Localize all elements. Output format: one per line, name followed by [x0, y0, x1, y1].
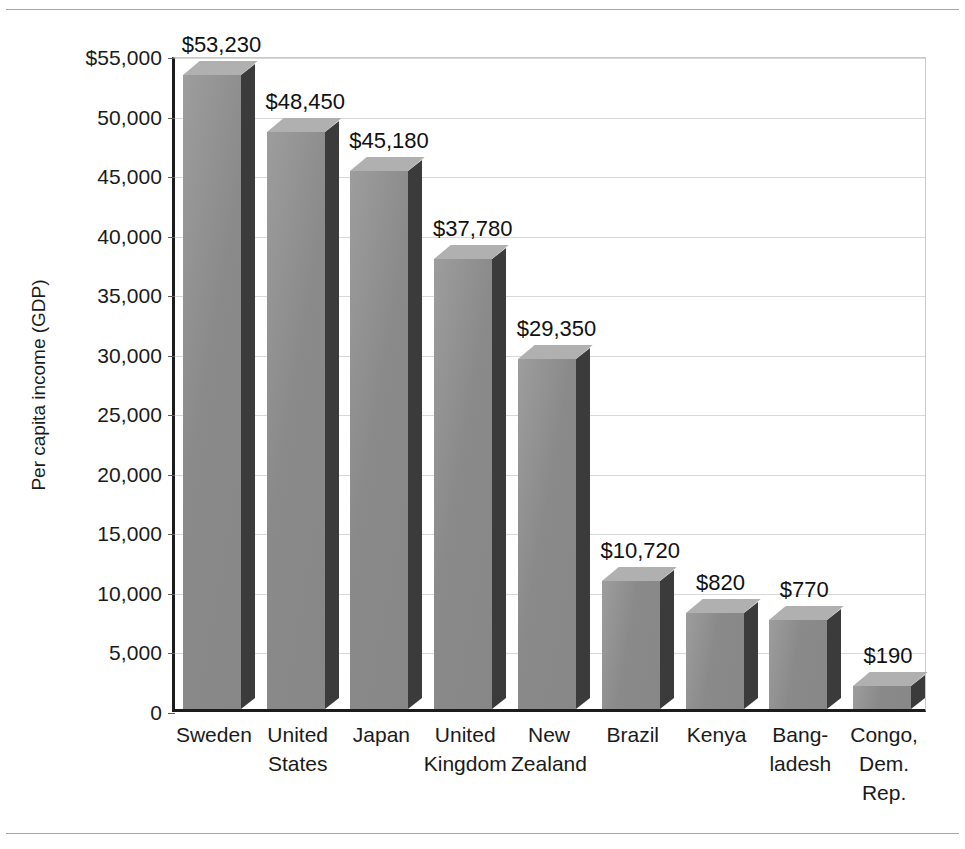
bar-front-face: [602, 581, 660, 709]
x-axis-label-line: Japan: [340, 720, 424, 749]
y-tick-label: 30,000: [97, 344, 162, 368]
y-tick-label: 40,000: [97, 225, 162, 249]
bar: $190: [853, 686, 911, 709]
bar-front-face: [350, 171, 408, 709]
x-axis-label: Bang-ladesh: [758, 720, 842, 778]
y-tick-mark: [168, 296, 175, 297]
y-tick-mark: [168, 177, 175, 178]
x-axis-label-line: Sweden: [172, 720, 256, 749]
bar-side-face: [660, 570, 674, 709]
x-axis-label: NewZealand: [507, 720, 591, 778]
page-rule-bottom: [6, 833, 959, 834]
x-axis-label-line: Congo,: [842, 720, 926, 749]
bar: $770: [769, 620, 827, 709]
x-axis-label-line: United: [423, 720, 507, 749]
y-axis-title: Per capita income (GDP): [26, 57, 52, 712]
y-tick-mark: [168, 713, 175, 714]
x-axis-label-line: Bang-: [758, 720, 842, 749]
x-axis-label-line: New: [507, 720, 591, 749]
bar: $29,350: [518, 359, 576, 709]
y-tick-mark: [168, 415, 175, 416]
bar-side-face: [827, 609, 841, 709]
y-tick-label: 25,000: [97, 403, 162, 427]
y-tick-label: 15,000: [97, 522, 162, 546]
y-tick-mark: [168, 653, 175, 654]
bar-value-label: $820: [696, 570, 745, 596]
y-tick-label: 50,000: [97, 106, 162, 130]
y-tick-label: 0: [150, 701, 162, 725]
y-tick-mark: [168, 594, 175, 595]
bar-value-label: $770: [780, 577, 829, 603]
chart-page: Per capita income (GDP) $55,00050,00045,…: [0, 0, 965, 849]
y-tick-label: $55,000: [85, 46, 162, 70]
bar: $45,180: [350, 171, 408, 709]
bar-value-label: $53,230: [182, 32, 262, 58]
bar: $48,450: [267, 132, 325, 709]
bar-front-face: [183, 75, 241, 709]
bar-front-face: [267, 132, 325, 709]
bar-side-face: [325, 121, 339, 709]
y-tick-mark: [168, 118, 175, 119]
y-tick-label: 45,000: [97, 165, 162, 189]
y-tick-label: 10,000: [97, 582, 162, 606]
y-tick-mark: [168, 237, 175, 238]
y-tick-mark: [168, 475, 175, 476]
x-axis-label-line: Zealand: [507, 749, 591, 778]
x-axis-label-line: Kingdom: [423, 749, 507, 778]
page-rule-top: [6, 9, 959, 10]
y-tick-mark: [168, 58, 175, 59]
bar: $53,230: [183, 75, 241, 709]
y-tick-mark: [168, 534, 175, 535]
y-axis-title-text: Per capita income (GDP): [28, 279, 50, 490]
x-axis-labels: SwedenUnitedStatesJapanUnitedKingdomNewZ…: [172, 720, 926, 820]
bar-side-face: [492, 248, 506, 709]
x-axis-label-line: Brazil: [591, 720, 675, 749]
y-tick-mark: [168, 356, 175, 357]
x-axis-label: UnitedKingdom: [423, 720, 507, 778]
x-axis-label: Japan: [340, 720, 424, 749]
bar-value-label: $190: [864, 643, 913, 669]
x-axis-label: Congo,Dem.Rep.: [842, 720, 926, 807]
bar-side-face: [408, 160, 422, 709]
x-axis-label: UnitedStates: [256, 720, 340, 778]
bar: $10,720: [602, 581, 660, 709]
y-tick-label: 20,000: [97, 463, 162, 487]
x-axis-label-line: Rep.: [842, 778, 926, 807]
bar-chart: Per capita income (GDP) $55,00050,00045,…: [0, 20, 965, 820]
bar-value-label: $10,720: [601, 538, 681, 564]
bar-front-face: [434, 259, 492, 709]
bar-value-label: $48,450: [265, 89, 345, 115]
bar-side-face: [576, 349, 590, 709]
bar: $820: [686, 613, 744, 709]
bar-value-label: $29,350: [517, 316, 597, 342]
bar-side-face: [241, 64, 255, 709]
y-tick-label: 35,000: [97, 284, 162, 308]
x-axis-label-line: Kenya: [675, 720, 759, 749]
bar-value-label: $45,180: [349, 128, 429, 154]
bar-front-face: [518, 359, 576, 709]
x-axis-label: Kenya: [675, 720, 759, 749]
x-axis-label-line: ladesh: [758, 749, 842, 778]
bar-front-face: [686, 613, 744, 709]
plot-area: $55,00050,00045,00040,00035,00030,00025,…: [172, 57, 926, 712]
bar: $37,780: [434, 259, 492, 709]
bar-series: $53,230$48,450$45,180$37,780$29,350$10,7…: [175, 58, 925, 709]
x-axis-label-line: Dem.: [842, 749, 926, 778]
x-axis-label-line: United: [256, 720, 340, 749]
y-tick-label: 5,000: [109, 641, 162, 665]
x-axis-label: Sweden: [172, 720, 256, 749]
x-axis-label-line: States: [256, 749, 340, 778]
bar-front-face: [853, 686, 911, 709]
x-axis-label: Brazil: [591, 720, 675, 749]
bar-side-face: [744, 602, 758, 709]
bar-value-label: $37,780: [433, 216, 513, 242]
bar-front-face: [769, 620, 827, 709]
